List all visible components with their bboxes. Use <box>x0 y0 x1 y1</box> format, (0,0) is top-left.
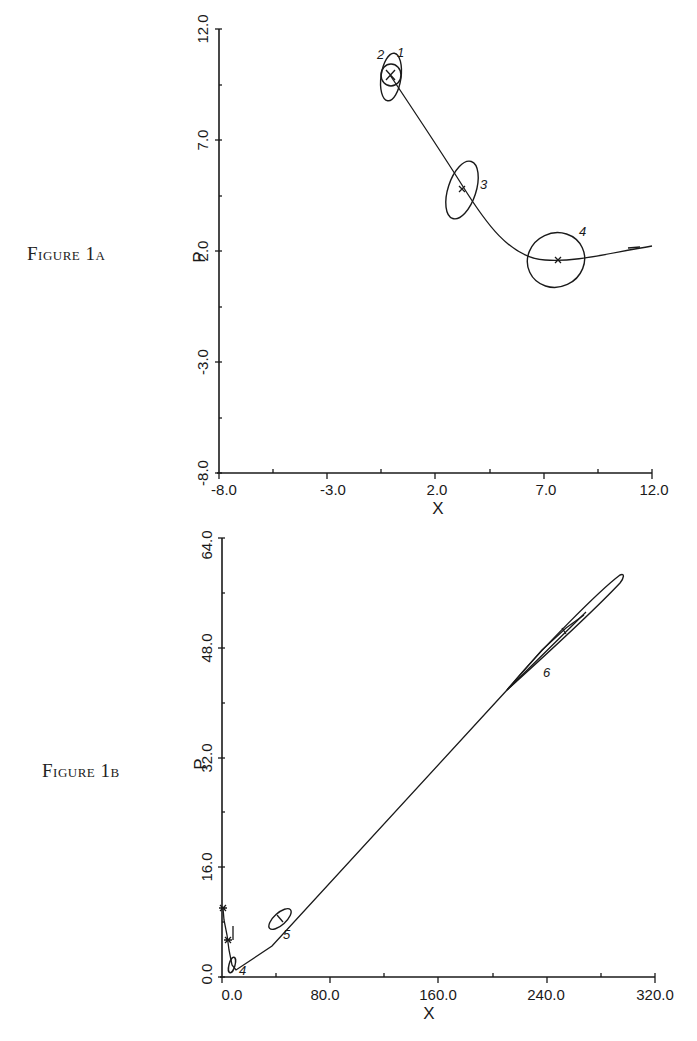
x-tick-label: 2.0 <box>427 481 448 498</box>
y-tick-label: -8.0 <box>194 460 211 486</box>
y-tick-label: 16.0 <box>198 852 215 881</box>
x-tick-label: -8.0 <box>211 481 237 498</box>
figures-canvas: 12.0 7.0 2.0 -3.0 -8.0 P -8.0 -3.0 2.0 7… <box>0 0 697 1041</box>
point-label-4: 4 <box>579 224 586 239</box>
y-axis-label: P <box>190 251 209 262</box>
y-tick-label: 0.0 <box>198 964 215 985</box>
estimate-markers <box>386 70 561 263</box>
x-tick-label: 12.0 <box>639 481 668 498</box>
point-label-1: 1 <box>397 45 404 60</box>
point-label-6: 6 <box>543 665 551 680</box>
x-ticks <box>219 469 652 479</box>
x-tick-label: 0.0 <box>222 986 243 1003</box>
y-tick-label: 64.0 <box>198 530 215 559</box>
point-label-3: 3 <box>480 177 488 192</box>
trajectory-curve <box>390 75 652 260</box>
estimate-markers <box>219 905 233 943</box>
y-tick-label: 48.0 <box>198 633 215 662</box>
x-tick-label: 7.0 <box>536 481 557 498</box>
x-tick-label: 320.0 <box>636 986 674 1003</box>
point-label-5: 5 <box>283 927 291 942</box>
figure-1b-chart: 64.0 48.0 32.0 16.0 0.0 P 0.0 80.0 160.0… <box>191 530 674 1023</box>
x-ticks <box>222 973 655 983</box>
x-tick-label: 240.0 <box>527 986 565 1003</box>
x-axis-label: X <box>423 1004 434 1023</box>
x-tick-label: -3.0 <box>320 481 346 498</box>
y-axis-label: P <box>191 758 210 769</box>
confidence-ellipse-3 <box>439 157 484 223</box>
figure-1a-chart: 12.0 7.0 2.0 -3.0 -8.0 P -8.0 -3.0 2.0 7… <box>190 14 669 518</box>
y-tick-label: 12.0 <box>194 14 211 43</box>
point-label-2: 2 <box>376 47 385 62</box>
y-tick-label: 7.0 <box>194 130 211 151</box>
y-tick-label: -3.0 <box>194 349 211 375</box>
x-tick-label: 160.0 <box>419 986 457 1003</box>
x-axis-label: X <box>432 499 443 518</box>
point-label-4: 4 <box>239 963 246 978</box>
estimate-marker-5 <box>277 915 283 922</box>
x-tick-label: 80.0 <box>310 986 339 1003</box>
